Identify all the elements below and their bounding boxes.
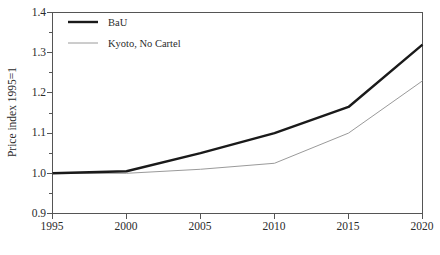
legend-label-kyoto-no-cartel: Kyoto, No Cartel <box>108 38 181 49</box>
x-tick-label-2: 2005 <box>189 220 212 232</box>
y-tick-label-0: 0.9 <box>32 207 47 219</box>
y-axis-tick-labels: 0.9 1.0 1.1 1.2 1.3 1.4 <box>32 6 47 219</box>
x-tick-label-3: 2010 <box>263 220 286 232</box>
series-line-kyoto-no-cartel <box>53 81 423 173</box>
line-chart: Price index 1995=1 0.9 1.0 1.1 1.2 1.3 1… <box>0 0 440 255</box>
chart-legend: BaU Kyoto, No Cartel <box>68 17 181 49</box>
series-group <box>53 45 423 174</box>
chart-canvas: Price index 1995=1 0.9 1.0 1.1 1.2 1.3 1… <box>0 0 440 255</box>
y-tick-label-1: 1.0 <box>32 167 47 179</box>
x-tick-label-1: 2000 <box>115 220 138 232</box>
x-axis-tick-labels: 1995 2000 2005 2010 2015 2020 <box>41 220 434 232</box>
x-axis-ticks <box>53 214 423 219</box>
x-tick-label-4: 2015 <box>337 220 360 232</box>
legend-label-bau: BaU <box>108 17 128 28</box>
y-axis-minor-ticks <box>49 33 52 194</box>
y-tick-label-3: 1.2 <box>32 86 47 98</box>
y-axis-title: Price index 1995=1 <box>6 67 18 157</box>
y-tick-label-2: 1.1 <box>32 126 47 138</box>
y-tick-label-5: 1.4 <box>32 6 47 18</box>
x-tick-label-5: 2020 <box>411 220 434 232</box>
x-tick-label-0: 1995 <box>41 220 64 232</box>
series-line-bau <box>53 45 423 174</box>
y-tick-label-4: 1.3 <box>32 46 47 58</box>
